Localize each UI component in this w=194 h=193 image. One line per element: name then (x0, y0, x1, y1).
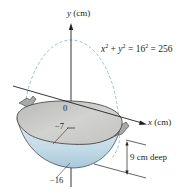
circle-equation: x2 + y2 = 162 = 256 (101, 45, 173, 55)
arrow-up-icon (125, 141, 128, 146)
y-axis-label: y (cm) (67, 9, 90, 18)
origin-label: 0 (63, 104, 67, 113)
depth-label: 9 cm deep (130, 153, 167, 162)
x-axis-label: x (cm) (148, 118, 171, 127)
y-axis-arrow-icon (69, 23, 73, 30)
rim-level-label: −7 (55, 122, 64, 131)
wok-diagram (0, 0, 194, 193)
bottom-label: −16 (50, 176, 63, 185)
x-axis-arrow-icon (139, 121, 147, 126)
